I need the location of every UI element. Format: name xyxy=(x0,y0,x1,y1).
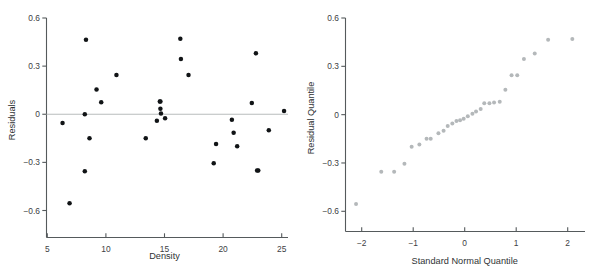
data-point xyxy=(533,51,537,55)
data-point xyxy=(570,37,574,41)
right-xtick-label: 1 xyxy=(514,238,519,248)
right-ytick-label: 0.6 xyxy=(327,13,339,23)
data-point xyxy=(474,109,478,113)
right-xtick-label: −2 xyxy=(357,238,367,248)
right-xtick-label: 0 xyxy=(462,238,467,248)
data-point xyxy=(442,129,446,133)
data-point xyxy=(522,57,526,61)
data-point xyxy=(458,118,462,122)
data-point xyxy=(410,145,414,149)
data-point xyxy=(379,170,383,174)
data-point xyxy=(446,124,450,128)
right-ytick-label: −0.3 xyxy=(322,158,339,168)
data-point xyxy=(436,131,440,135)
data-point xyxy=(498,100,502,104)
data-point xyxy=(392,170,396,174)
right-xtick-label: 2 xyxy=(565,238,570,248)
right-ytick-label: 0 xyxy=(334,110,339,120)
data-point xyxy=(425,137,429,141)
right-yaxis-title: Residual Quantile xyxy=(306,82,316,155)
data-point xyxy=(515,73,519,77)
data-point xyxy=(417,142,421,146)
data-point xyxy=(466,114,470,118)
data-point xyxy=(402,162,406,166)
data-point xyxy=(470,112,474,116)
data-point xyxy=(462,117,466,121)
right-scatter-svg: −0.6−0.300.30.6−2−1012Standard Normal Qu… xyxy=(0,0,593,275)
data-point xyxy=(492,101,496,105)
data-point xyxy=(503,88,507,92)
right-data-points xyxy=(354,37,574,206)
data-point xyxy=(482,101,486,105)
data-point xyxy=(354,202,358,206)
right-ytick-label: 0.3 xyxy=(327,61,339,71)
right-ytick-label: −0.6 xyxy=(322,206,339,216)
data-point xyxy=(546,38,550,42)
right-axes: −0.6−0.300.30.6−2−1012 xyxy=(322,13,585,248)
data-point xyxy=(479,107,483,111)
data-point xyxy=(450,122,454,126)
right-xaxis-title: Standard Normal Quantile xyxy=(412,256,518,266)
data-point xyxy=(487,101,491,105)
right-xtick-label: −1 xyxy=(408,238,418,248)
data-point xyxy=(510,73,514,77)
right-panel-normal-qq: −0.6−0.300.30.6−2−1012Standard Normal Qu… xyxy=(0,0,593,275)
data-point xyxy=(429,137,433,141)
residual-diagnostics-figure: −0.6−0.300.30.6510152025DensityResiduals… xyxy=(0,0,593,275)
data-point xyxy=(454,119,458,123)
